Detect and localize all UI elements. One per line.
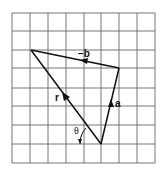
arrowhead-icon — [78, 139, 82, 144]
label-r: r — [55, 92, 59, 103]
arrowhead-icon — [108, 99, 114, 107]
label-a: a — [115, 98, 121, 109]
label-theta: θ — [74, 125, 79, 136]
angle-theta-marker — [78, 128, 86, 144]
vector-diagram: −b r a θ — [0, 0, 167, 172]
label-neg-b: −b — [78, 48, 90, 59]
grid — [12, 13, 155, 163]
vector-neg-b — [31, 50, 119, 68]
